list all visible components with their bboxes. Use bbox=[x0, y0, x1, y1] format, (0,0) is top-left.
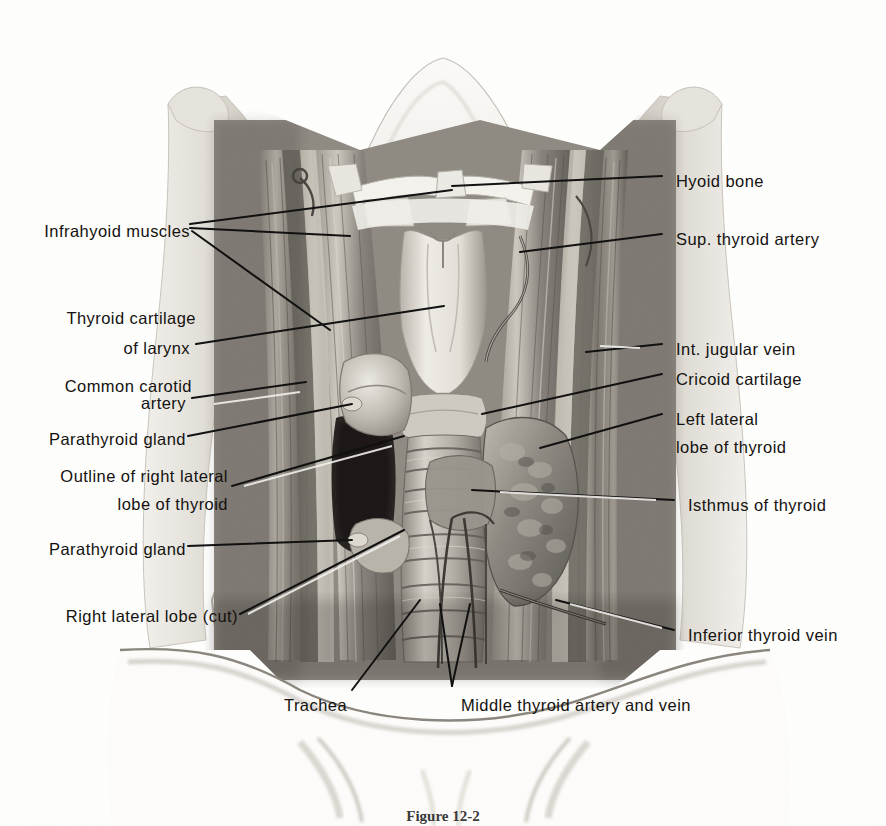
label-thyroid-cartilage: Thyroid cartilage bbox=[0, 303, 196, 333]
label-outline-right-lobe: Outline of right lateral bbox=[0, 461, 228, 491]
label-common-carotid-line2: artery bbox=[0, 388, 186, 418]
label-inferior-thyroid-vein: Inferior thyroid vein bbox=[688, 620, 838, 650]
label-parathyroid-gland-upper: Parathyroid gland bbox=[0, 424, 186, 454]
label-hyoid-bone: Hyoid bone bbox=[676, 166, 764, 196]
label-right-lateral-lobe-cut: Right lateral lobe (cut) bbox=[0, 601, 238, 631]
label-sup-thyroid-artery: Sup. thyroid artery bbox=[676, 224, 819, 254]
anatomical-figure-plate: Infrahyoid muscles Thyroid cartilage of … bbox=[0, 0, 886, 826]
label-int-jugular-vein: Int. jugular vein bbox=[676, 334, 796, 364]
label-left-lateral-lobe: Left lateral bbox=[676, 404, 758, 434]
label-trachea: Trachea bbox=[284, 690, 347, 720]
label-cricoid-cartilage: Cricoid cartilage bbox=[676, 364, 802, 394]
label-parathyroid-gland-lower: Parathyroid gland bbox=[0, 534, 186, 564]
label-isthmus-of-thyroid: Isthmus of thyroid bbox=[688, 490, 826, 520]
label-infrahyoid-muscles: Infrahyoid muscles bbox=[0, 216, 190, 246]
label-thyroid-cartilage-line2: of larynx bbox=[0, 333, 190, 363]
figure-caption: Figure 12-2 bbox=[0, 808, 886, 825]
label-outline-right-lobe-line2: lobe of thyroid bbox=[0, 489, 228, 519]
label-middle-thyroid-artery-and-vein: Middle thyroid artery and vein bbox=[461, 690, 691, 720]
label-left-lateral-lobe-line2: lobe of thyroid bbox=[676, 432, 786, 462]
